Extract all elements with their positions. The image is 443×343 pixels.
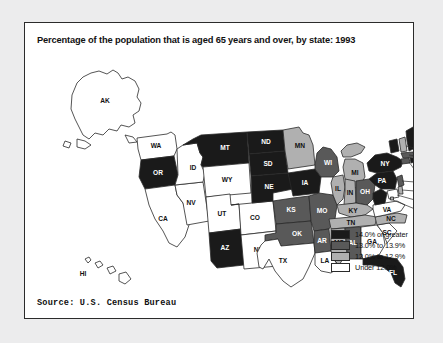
state-label-SD: SD <box>263 160 272 167</box>
state-label-HI: HI <box>80 270 87 277</box>
state-label-IL: IL <box>335 185 341 192</box>
state-label-MT: MT <box>220 144 230 151</box>
state-OH[interactable]: OH <box>356 179 375 205</box>
state-label-OK: OK <box>292 230 302 237</box>
state-NH[interactable] <box>399 137 407 152</box>
state-label-ND: ND <box>261 138 271 145</box>
state-label-NY: NY <box>380 160 390 167</box>
page-root: Percentage of the population that is age… <box>0 0 443 343</box>
legend-swatch-3 <box>331 263 350 272</box>
legend-item[interactable]: 12.0% to 12.9% <box>331 251 433 262</box>
state-SD[interactable]: SD <box>249 151 288 176</box>
legend-item[interactable]: Under 12.0% <box>331 262 433 273</box>
state-HI[interactable]: HI <box>80 257 131 284</box>
state-RI[interactable] <box>410 158 413 163</box>
state-label-WA: WA <box>151 142 162 149</box>
state-label-NV: NV <box>186 199 196 206</box>
state-label-KY: KY <box>348 207 358 214</box>
state-NE[interactable]: NE <box>251 173 293 203</box>
state-label-MI: MI <box>351 169 358 176</box>
state-label-AK: AK <box>100 97 110 104</box>
state-OR[interactable]: OR <box>139 156 178 189</box>
state-label-CO: CO <box>250 214 260 221</box>
figure-panel: Percentage of the population that is age… <box>24 22 414 319</box>
state-label-NC: NC <box>386 215 396 222</box>
source-note: Source: U.S. Census Bureau <box>37 298 176 308</box>
state-AZ[interactable]: AZ <box>209 229 244 268</box>
state-WV[interactable] <box>373 189 387 205</box>
legend-label-1: 13.0% to 13.9% <box>355 241 405 250</box>
state-label-KS: KS <box>286 206 296 213</box>
legend-label-3: Under 12.0% <box>355 263 397 272</box>
state-NY[interactable]: NY <box>367 153 403 173</box>
state-VT[interactable] <box>389 139 399 153</box>
state-label-CA: CA <box>158 215 168 222</box>
state-WA[interactable]: WA <box>137 132 177 160</box>
legend-item[interactable]: 13.0% to 13.9% <box>331 240 433 251</box>
state-label-LA: LA <box>321 257 330 264</box>
state-AR[interactable]: AR <box>314 229 331 253</box>
state-label-MO: MO <box>317 207 328 214</box>
state-label-VA: VA <box>383 206 392 213</box>
state-IN[interactable]: IN <box>344 179 356 205</box>
legend-label-0: 14.0% or greater <box>355 230 408 239</box>
legend-label-2: 12.0% to 12.9% <box>355 252 405 261</box>
state-label-WY: WY <box>222 176 233 183</box>
state-label-UT: UT <box>218 210 227 217</box>
state-CT[interactable] <box>401 158 410 164</box>
state-label-TN: TN <box>347 219 356 226</box>
state-label-MN: MN <box>295 142 305 149</box>
state-WI[interactable]: WI <box>315 147 339 177</box>
state-label-OH: OH <box>360 188 370 195</box>
state-ND[interactable]: ND <box>247 130 285 154</box>
map-legend: 14.0% or greater 13.0% to 13.9% 12.0% to… <box>331 229 433 273</box>
state-label-AR: AR <box>317 237 327 244</box>
state-DC[interactable] <box>391 197 394 200</box>
state-AK[interactable]: AK <box>63 70 141 149</box>
state-label-PA: PA <box>378 177 387 184</box>
state-label-OR: OR <box>153 169 163 176</box>
state-UT[interactable]: UT <box>206 194 241 233</box>
state-label-IN: IN <box>347 189 354 196</box>
legend-swatch-1 <box>331 241 350 250</box>
state-IA[interactable]: IA <box>288 169 321 196</box>
state-KY[interactable]: KY <box>337 203 373 217</box>
page-title: Percentage of the population that is age… <box>37 35 355 45</box>
state-WY[interactable]: WY <box>203 163 251 197</box>
state-label-IA: IA <box>302 179 309 186</box>
legend-item[interactable]: 14.0% or greater <box>331 229 433 240</box>
state-KS[interactable]: KS <box>273 196 311 224</box>
state-TX[interactable]: TX <box>257 239 315 287</box>
legend-swatch-0 <box>331 230 350 239</box>
state-label-WI: WI <box>324 159 332 166</box>
state-label-TX: TX <box>279 257 288 264</box>
state-label-NE: NE <box>264 183 274 190</box>
legend-swatch-2 <box>331 252 350 261</box>
state-MN[interactable]: MN <box>283 127 315 169</box>
state-label-ID: ID <box>190 164 197 171</box>
state-label-AZ: AZ <box>221 244 230 251</box>
